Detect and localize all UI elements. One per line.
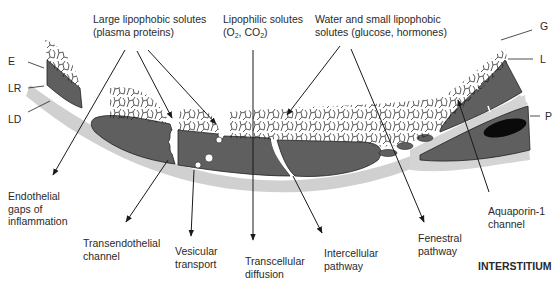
label-E: E: [8, 55, 15, 68]
label-line: pathway: [324, 260, 378, 273]
label-line: transport: [175, 258, 218, 271]
label-LD: LD: [8, 113, 21, 126]
text: ): [264, 26, 268, 38]
label-line: Vesicular: [175, 245, 218, 258]
label-line: channel: [488, 218, 545, 231]
label-intercellular: Intercellular pathway: [324, 247, 378, 272]
label-transcellular: Transcellular diffusion: [245, 255, 305, 280]
label-line: gaps of: [8, 203, 68, 216]
label-line: Intercellular: [324, 247, 378, 260]
label-aquaporin: Aquaporin-1 channel: [488, 205, 545, 230]
label-fenestral: Fenestral pathway: [418, 232, 462, 257]
label-P: P: [545, 110, 552, 123]
text: , CO: [239, 26, 261, 38]
label-vesicular: Vesicular transport: [175, 245, 218, 270]
label-large-lipophobic: Large lipophobic solutes (plasma protein…: [93, 13, 206, 38]
label-line: Water and small lipophobic: [315, 13, 447, 26]
label-line: Fenestral: [418, 232, 462, 245]
label-line: Aquaporin-1: [488, 205, 545, 218]
arrow-transendothelial: [126, 160, 168, 222]
label-line: Transendothelial: [83, 237, 160, 250]
label-line: (O2, CO2): [223, 26, 303, 39]
label-G: G: [540, 20, 548, 33]
label-line: Endothelial: [8, 190, 68, 203]
text: (O: [223, 26, 235, 38]
label-L: L: [540, 53, 546, 66]
label-line: Large lipophobic solutes: [93, 13, 206, 26]
label-line: pathway: [418, 245, 462, 258]
label-line: inflammation: [8, 215, 68, 228]
label-line: Lipophilic solutes: [223, 13, 303, 26]
label-lipophilic: Lipophilic solutes (O2, CO2): [223, 13, 303, 38]
label-line: solutes (glucose, hormones): [315, 26, 447, 39]
label-line: diffusion: [245, 268, 305, 281]
label-line: channel: [83, 250, 160, 263]
label-water-small: Water and small lipophobic solutes (gluc…: [315, 13, 447, 38]
label-transendothelial: Transendothelial channel: [83, 237, 160, 262]
label-LR: LR: [8, 82, 21, 95]
label-endothelial-gaps: Endothelial gaps of inflammation: [8, 190, 68, 228]
label-line: (plasma proteins): [93, 26, 206, 39]
label-interstitium: INTERSTITIUM: [478, 260, 552, 273]
arrow-water-1: [287, 46, 340, 115]
label-line: Transcellular: [245, 255, 305, 268]
